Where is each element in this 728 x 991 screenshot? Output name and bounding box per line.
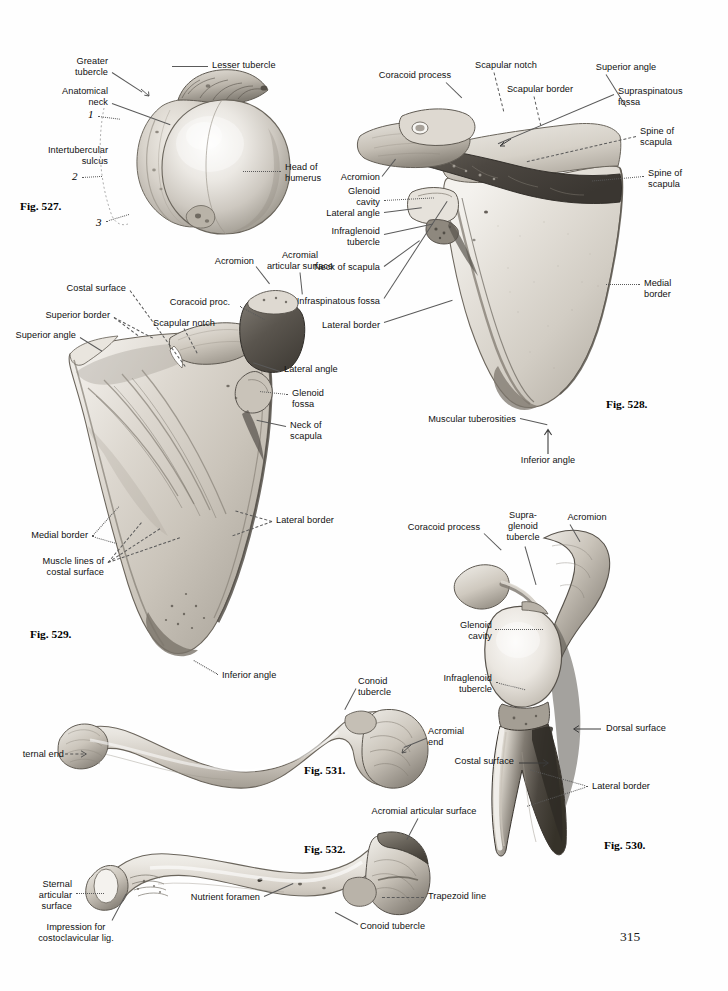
fig529-leader-glenoid-fossa xyxy=(260,391,288,395)
fig528-label-acromion: Acromion xyxy=(322,172,380,183)
fig528-leader-lateral-border xyxy=(384,300,453,323)
fig528-arrowhead-supraspinatous-fossa xyxy=(498,138,512,150)
fig529-leader-lateral-border-b xyxy=(232,521,272,536)
fig527-leader-marker-1 xyxy=(98,116,120,120)
fig532-caption: Fig. 532. xyxy=(304,843,345,855)
fig529-leader-medial-border-b xyxy=(92,536,117,544)
fig528-leader-spine-upper xyxy=(527,136,636,162)
fig530-label-infraglenoid-tubercle: Infraglenoid tubercle xyxy=(412,673,492,695)
fig531-caption: Fig. 531. xyxy=(304,764,345,776)
fig528-leader-infraglenoid-tubercle xyxy=(384,224,433,235)
fig527-label-intertubercular-sulcus: Intertubercular sulcus xyxy=(10,145,108,167)
fig529-leader-muscle-lines-a xyxy=(108,537,180,563)
fig532-leader-trapezoid-line xyxy=(382,897,424,898)
fig530-label-coracoid-process: Coracoid process xyxy=(396,522,492,533)
fig528-arrow-inferior-angle xyxy=(543,428,553,454)
fig528-label-coracoid-process: Coracoid process xyxy=(370,70,460,81)
fig528-leader-neck-of-scapula xyxy=(384,240,420,267)
fig532-label-acromial-articular-surface: Acromial articular surface xyxy=(350,806,498,817)
fig530-label-lateral-border: Lateral border xyxy=(592,781,676,792)
fig528-label-medial-border: Medial border xyxy=(644,278,708,300)
fig529-leader-muscle-lines-c xyxy=(108,522,142,562)
fig529-caption: Fig. 529. xyxy=(30,628,71,640)
fig531-arrowhead-acromial-end xyxy=(400,744,412,756)
fig530-leader-supraglenoid-tubercle xyxy=(525,546,537,585)
fig530-leader-lateral-border-a xyxy=(530,769,588,786)
fig531-label-sternal-end: ternal end xyxy=(0,749,64,760)
fig530-label-acromion: Acromion xyxy=(556,512,618,523)
fig527-arrowhead-greater-tubercle xyxy=(140,88,152,100)
fig527-label-anatomical-neck: Anatomical neck xyxy=(38,86,108,108)
fig532-leader-conoid-tubercle xyxy=(335,912,358,925)
fig528-leader-medial-border xyxy=(606,284,640,285)
fig530-leader-lateral-border-b xyxy=(527,786,588,807)
fig529-label-lateral-angle: Lateral angle xyxy=(284,364,358,375)
page-number: 315 xyxy=(620,929,640,945)
fig529-label-acromial-articular-surface: Acromial articular surface xyxy=(254,250,346,272)
fig527-leader-anatomical-neck xyxy=(112,103,171,125)
fig529-leader-acromial-articular-surface xyxy=(300,272,303,294)
fig-531-clavicle-illustration xyxy=(50,694,440,804)
fig528-leader-lateral-angle xyxy=(384,207,422,213)
fig529-leader-medial-border-a xyxy=(92,506,120,536)
fig528-label-scapular-notch: Scapular notch xyxy=(460,60,552,71)
fig529-label-inferior-angle: Inferior angle xyxy=(222,670,300,681)
fig532-leader-acromial-articular-surface xyxy=(406,818,418,840)
fig528-label-lateral-angle: Lateral angle xyxy=(308,208,380,219)
fig529-leader-superior-angle xyxy=(80,337,103,352)
fig529-leader-muscle-lines-b xyxy=(108,528,161,563)
fig530-leader-glenoid-cavity xyxy=(495,629,543,630)
fig527-marker-1: 1 xyxy=(88,108,94,120)
fig527-leader-head-of-humerus xyxy=(243,171,281,172)
fig529-label-glenoid-fossa: Glenoid fossa xyxy=(292,388,356,410)
fig529-leader-superior-border-b xyxy=(114,317,139,336)
fig531-leader-acromial-end xyxy=(404,738,427,748)
fig528-leader-muscular-tuberosities xyxy=(520,418,548,425)
fig528-leader-glenoid-cavity xyxy=(384,197,434,201)
fig531-label-acromial-end: Acromial end xyxy=(428,726,486,748)
fig528-leader-acromion xyxy=(382,159,396,177)
fig532-label-conoid-tubercle: Conoid tubercle xyxy=(360,921,444,932)
fig529-leader-neck-of-scapula xyxy=(257,420,287,427)
fig532-label-trapezoid-line: Trapezoid line xyxy=(428,891,508,902)
fig528-caption: Fig. 528. xyxy=(606,398,647,410)
fig529-label-superior-angle: Superior angle xyxy=(2,330,76,341)
fig529-label-medial-border: Medial border xyxy=(10,530,88,541)
fig532-leader-impression-costoclavicular xyxy=(112,894,127,921)
fig527-leader-marker-2 xyxy=(82,176,102,178)
fig527-marker-2: 2 xyxy=(72,170,78,182)
fig529-label-coracoid-proc: Coracoid proc. xyxy=(158,297,242,308)
fig528-leader-scapular-border xyxy=(534,96,542,125)
fig528-leader-supraspinatous-fossa xyxy=(498,94,614,144)
fig528-label-inferior-angle: Inferior angle xyxy=(500,455,596,466)
fig527-label-greater-tubercle: Greater tubercle xyxy=(46,56,108,78)
fig529-label-muscle-lines: Muscle lines of costal surface xyxy=(14,556,104,578)
fig528-label-infraspinatous-fossa: Infraspinatous fossa xyxy=(268,296,380,307)
fig530-label-supraglenoid-tubercle: Supra- glenoid tubercle xyxy=(492,510,554,544)
fig532-label-nutrient-foramen: Nutrient foramen xyxy=(166,892,260,903)
fig529-leader-inferior-angle xyxy=(194,660,219,675)
fig532-leader-nutrient-foramen xyxy=(264,883,294,897)
fig-529-scapula-illustration xyxy=(52,276,310,676)
fig528-label-superior-angle: Superior angle xyxy=(580,62,672,73)
fig529-leader-lateral-angle xyxy=(253,362,280,372)
fig530-label-costal-surface: Costal surface xyxy=(436,756,514,767)
fig529-label-lateral-border: Lateral border xyxy=(276,515,360,526)
fig527-leader-marker-3 xyxy=(106,214,129,222)
fig527-marker-3: 3 xyxy=(96,216,102,228)
fig528-label-lateral-border: Lateral border xyxy=(284,320,380,331)
fig530-label-dorsal-surface: Dorsal surface xyxy=(606,723,698,734)
fig530-leader-acromion xyxy=(570,524,581,542)
fig529-label-scapular-notch: Scapular notch xyxy=(142,318,226,329)
fig528-label-supraspinatous-fossa: Supraspinatous fossa xyxy=(618,86,714,108)
fig-532-clavicle-illustration xyxy=(48,818,448,938)
fig531-arrow-sternal-end xyxy=(64,749,88,759)
fig529-leader-coracoid-proc xyxy=(240,306,265,320)
fig530-label-glenoid-cavity: Glenoid cavity xyxy=(428,620,492,642)
fig528-leader-spine-lower xyxy=(592,176,644,182)
fig-528-scapula-illustration xyxy=(358,86,640,426)
fig-527-humerus-illustration xyxy=(118,58,308,248)
fig529-leader-scapular-notch xyxy=(184,328,198,353)
fig531-leader-conoid-tubercle xyxy=(344,688,356,710)
fig532-label-impression-costoclavicular: Impression for costoclavicular lig. xyxy=(18,922,134,944)
